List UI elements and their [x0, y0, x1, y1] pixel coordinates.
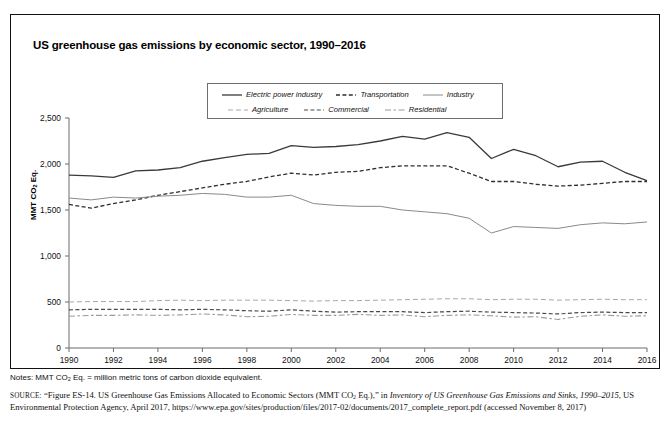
source-part-1: “Figure ES-14. US Greenhouse Gas Emissio… — [44, 390, 353, 400]
x-tick-label: 2004 — [360, 355, 400, 365]
line-chart-svg — [11, 15, 661, 370]
chart-legend: Electric power industryTransportationInd… — [207, 83, 503, 119]
legend-item-commercial[interactable]: Commercial — [304, 106, 369, 114]
series-line-transportation — [69, 166, 647, 208]
legend-label: Industry — [447, 91, 474, 99]
legend-label: Electric power industry — [246, 91, 322, 99]
figure-frame: US greenhouse gas emissions by economic … — [10, 14, 660, 369]
legend-item-transportation[interactable]: Transportation — [336, 91, 408, 99]
x-tick-label: 2002 — [316, 355, 356, 365]
legend-label: Transportation — [360, 91, 408, 99]
x-tick-label: 2014 — [583, 355, 623, 365]
y-tick-label: 2,000 — [21, 159, 61, 169]
notes-suffix: Eq. = million metric tons of carbon diox… — [71, 373, 262, 382]
source-label: source: — [10, 392, 42, 400]
legend-swatch-icon — [423, 92, 443, 98]
y-tick-label: 0 — [21, 343, 61, 353]
x-tick-label: 1996 — [182, 355, 222, 365]
series-line-residential — [69, 314, 647, 320]
chart-plot-area — [11, 15, 661, 370]
chart-notes: Notes: MMT CO2 Eq. = million metric tons… — [10, 373, 665, 383]
x-tick-label: 1998 — [227, 355, 267, 365]
legend-item-agriculture[interactable]: Agriculture — [228, 106, 288, 114]
legend-label: Agriculture — [252, 106, 288, 114]
x-tick-label: 1990 — [49, 355, 89, 365]
legend-label: Residential — [409, 106, 447, 114]
legend-swatch-icon — [385, 107, 405, 113]
source-publication-title: Inventory of US Greenhouse Gas Emissions… — [390, 390, 619, 400]
x-tick-label: 2000 — [271, 355, 311, 365]
legend-label: Commercial — [328, 106, 369, 114]
y-tick-label: 500 — [21, 297, 61, 307]
x-tick-label: 2006 — [405, 355, 445, 365]
y-tick-label: 2,500 — [21, 113, 61, 123]
legend-row-2: AgricultureCommercialResidential — [214, 102, 496, 117]
chart-source: source: “Figure ES-14. US Greenhouse Gas… — [10, 390, 662, 413]
legend-swatch-icon — [336, 92, 356, 98]
series-line-electric-power-industry — [69, 133, 647, 181]
y-tick-label: 1,000 — [21, 251, 61, 261]
series-line-industry — [69, 193, 647, 233]
legend-item-residential[interactable]: Residential — [385, 106, 447, 114]
x-tick-label: 2016 — [627, 355, 667, 365]
legend-item-industry[interactable]: Industry — [423, 91, 474, 99]
x-tick-label: 2008 — [449, 355, 489, 365]
x-tick-label: 2012 — [538, 355, 578, 365]
legend-swatch-icon — [222, 92, 242, 98]
legend-item-electric-power-industry[interactable]: Electric power industry — [222, 91, 322, 99]
y-tick-label: 1,500 — [21, 205, 61, 215]
notes-prefix: Notes: MMT CO — [10, 373, 68, 382]
series-line-commercial — [69, 309, 647, 314]
x-tick-label: 1992 — [93, 355, 133, 365]
page-title: US greenhouse gas emissions by economic … — [33, 39, 366, 51]
legend-swatch-icon — [228, 107, 248, 113]
legend-swatch-icon — [304, 107, 324, 113]
x-tick-label: 1994 — [138, 355, 178, 365]
x-tick-label: 2010 — [494, 355, 534, 365]
source-part-2: Eq.),” in — [356, 390, 390, 400]
legend-row-1: Electric power industryTransportationInd… — [214, 87, 496, 102]
series-line-agriculture — [69, 299, 647, 302]
